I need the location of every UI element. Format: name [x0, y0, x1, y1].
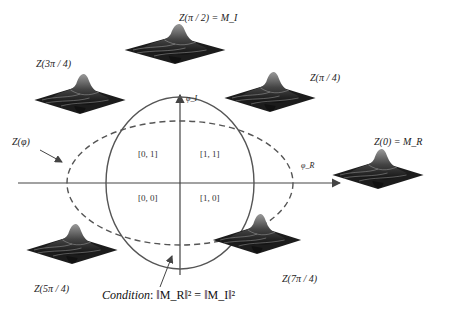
surface-z-pi-2 [125, 24, 226, 64]
surface-z-5pi-4 [26, 224, 117, 264]
label-z-pi-2: Z(π / 2) = M_I [179, 12, 237, 23]
surface-z-0 [332, 149, 423, 189]
surface-z-3pi-4 [34, 74, 125, 114]
condition-prefix: Condition [102, 288, 150, 302]
label-z-0: Z(0) = M_R [374, 136, 422, 147]
quadrant-top-right: [1, 1] [200, 149, 220, 159]
label-z-3pi-4: Z(3π / 4) [36, 58, 71, 69]
label-z-phi: Z(φ) [12, 136, 30, 147]
diagram-graphics [0, 0, 458, 316]
quadrant-top-left: [0, 1] [138, 149, 158, 159]
condition-text: Condition: ‖M_R‖² = ‖M_I‖² [102, 288, 235, 303]
condition-equation: : ‖M_R‖² = ‖M_I‖² [150, 288, 235, 302]
label-real-axis: φ_R [301, 161, 314, 170]
quadrant-bottom-right: [1, 0] [200, 193, 220, 203]
diagram-canvas: Z(π / 2) = M_I Z(3π / 4) Z(π / 4) Z(0) =… [0, 0, 458, 316]
surface-z-pi-4 [224, 72, 315, 112]
quadrant-bottom-left: [0, 0] [138, 193, 158, 203]
label-z-7pi-4: Z(7π / 4) [282, 273, 317, 284]
surface-z-7pi-4 [213, 214, 301, 254]
label-imag-axis: φ_I [186, 94, 197, 103]
label-z-pi-4: Z(π / 4) [310, 72, 340, 83]
label-z-5pi-4: Z(5π / 4) [34, 283, 69, 294]
